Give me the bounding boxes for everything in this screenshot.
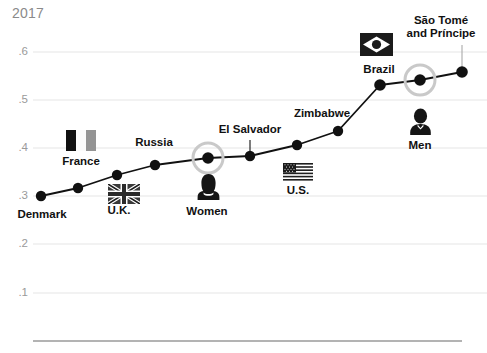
data-point-el-salvador	[245, 151, 255, 161]
point-label-us: U.S.	[277, 184, 319, 196]
data-point-zimbabwe	[333, 126, 343, 136]
data-point-france	[73, 183, 83, 193]
data-point-us	[292, 140, 302, 150]
point-label-women: Women	[176, 205, 238, 217]
point-label-men: Men	[398, 139, 442, 151]
point-label-france: France	[51, 155, 111, 167]
point-label-russia: Russia	[124, 136, 184, 148]
point-label-el-salvador: El Salvador	[210, 123, 290, 135]
point-label-denmark: Denmark	[11, 208, 73, 220]
point-label-zimbabwe: Zimbabwe	[283, 107, 361, 119]
point-label-uk: U.K.	[98, 204, 140, 216]
data-point-women	[202, 152, 214, 164]
person-women-icon	[197, 172, 220, 204]
data-point-sao-tome	[456, 66, 468, 78]
data-point-uk	[112, 170, 122, 180]
data-point-brazil	[374, 79, 386, 91]
person-men-icon	[409, 108, 432, 139]
flag-brazil-icon	[360, 33, 393, 56]
data-point-men	[414, 74, 426, 86]
chart-container: 2017 .6 .5 .4 .3 .2 .1	[0, 0, 487, 353]
point-label-brazil: Brazil	[352, 63, 406, 75]
point-label-sao-tome: São Tomé and Príncipe	[396, 14, 486, 40]
data-point-denmark	[36, 191, 46, 201]
chart-series	[0, 0, 487, 353]
point-label-sao-tome-line2: and Príncipe	[406, 27, 475, 39]
data-point-russia	[150, 160, 160, 170]
point-label-sao-tome-line1: São Tomé	[414, 14, 468, 26]
flag-france-icon	[66, 130, 96, 151]
flag-us-icon	[283, 163, 313, 182]
flag-uk-icon	[108, 184, 140, 204]
